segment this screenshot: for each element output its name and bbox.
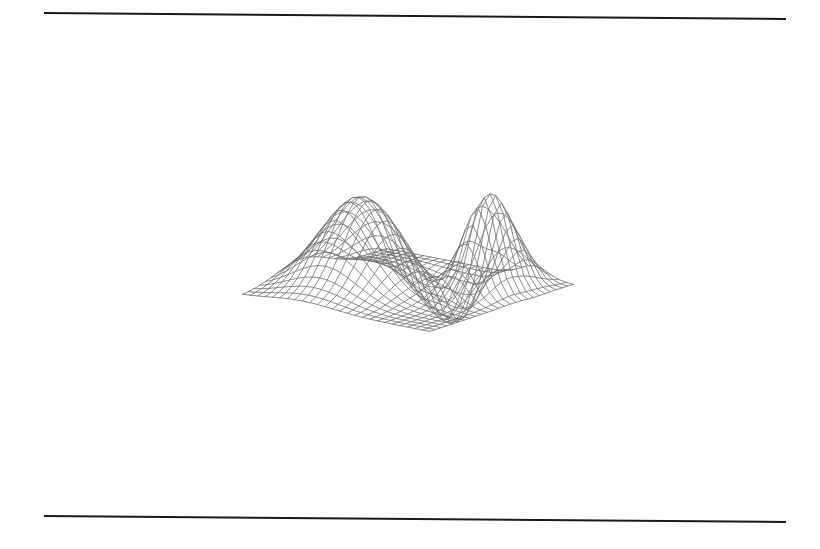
mesh-line (294, 202, 481, 314)
rule-top-line (44, 13, 786, 19)
figure-page (0, 0, 820, 549)
mesh-line (430, 284, 574, 331)
mesh-lines-group (243, 194, 574, 332)
surface-wireframe (0, 22, 820, 514)
horizontal-rule-top (0, 12, 820, 20)
horizontal-rule-bottom (0, 515, 820, 523)
rule-bottom-line (44, 516, 786, 522)
surface-plot-figure (0, 22, 820, 514)
